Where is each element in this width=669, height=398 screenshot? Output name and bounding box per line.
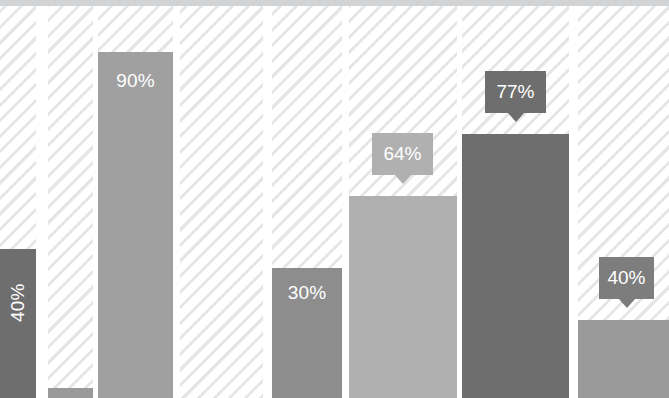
column-hatch-background	[48, 6, 93, 398]
chart-column-7[interactable]: 77%	[462, 6, 569, 398]
bar-3[interactable]: 90%	[98, 52, 173, 398]
bar-6-callout[interactable]: 64%	[372, 133, 433, 175]
bar-8[interactable]	[578, 320, 669, 398]
chart-column-2[interactable]	[48, 6, 93, 398]
chart-column-4[interactable]	[180, 6, 263, 398]
chart-column-1[interactable]: 40%	[0, 6, 36, 398]
bar-8-value-label: 40%	[607, 267, 645, 289]
bar-7-callout[interactable]: 77%	[485, 71, 546, 113]
bar-5[interactable]: 30%	[272, 268, 342, 398]
callout-pointer-icon	[394, 174, 412, 184]
bar-chart: 40% 90% 30%	[0, 0, 669, 398]
bar-7[interactable]	[462, 134, 569, 398]
column-hatch-background	[180, 6, 263, 398]
callout-pointer-icon	[507, 112, 525, 122]
chart-column-3[interactable]: 90%	[98, 6, 173, 398]
bar-2[interactable]	[48, 388, 93, 398]
bar-7-value-label: 77%	[496, 81, 534, 103]
plot-area: 40% 90% 30%	[0, 6, 669, 398]
chart-column-5[interactable]: 30%	[272, 6, 342, 398]
bar-6-value-label: 64%	[383, 143, 421, 165]
bar-1[interactable]: 40%	[0, 249, 36, 398]
chart-column-6[interactable]: 64%	[349, 6, 457, 398]
bar-6[interactable]	[349, 196, 457, 398]
bar-8-callout[interactable]: 40%	[599, 257, 654, 299]
chart-column-8[interactable]: 40%	[578, 6, 669, 398]
bar-5-value-label: 30%	[272, 282, 342, 304]
callout-pointer-icon	[618, 298, 636, 308]
bar-3-value-label: 90%	[98, 70, 173, 92]
bar-1-value-label: 40%	[7, 286, 29, 322]
